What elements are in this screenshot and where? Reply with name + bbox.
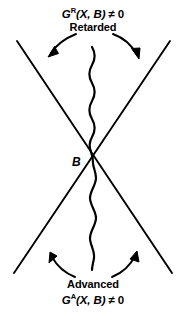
top-right-arrow-head bbox=[132, 48, 141, 59]
vertex-label-b: B bbox=[72, 155, 81, 169]
bottom-right-arrow-head bbox=[130, 251, 139, 262]
retarded-formula-arguments: (X, B) bbox=[76, 8, 105, 20]
retarded-region-label: Retarded bbox=[0, 21, 186, 33]
retarded-formula-relation: ≠ 0 bbox=[105, 8, 124, 20]
top-left-curved-arrow bbox=[48, 34, 76, 57]
diagram-canvas bbox=[0, 0, 186, 312]
bottom-left-curved-arrow bbox=[49, 252, 75, 277]
top-right-curved-arrow bbox=[113, 34, 140, 59]
light-cone-figure: GR(X, B) ≠ 0 Retarded Advanced GA(X, B) … bbox=[0, 0, 186, 312]
advanced-region-label: Advanced bbox=[0, 278, 186, 290]
retarded-green-function-formula: GR(X, B) ≠ 0 bbox=[0, 6, 186, 20]
advanced-formula-arguments: (X, B) bbox=[76, 294, 105, 306]
bottom-left-arrow-shaft bbox=[52, 257, 75, 277]
top-left-arrow-head bbox=[48, 47, 59, 58]
retarded-formula-symbol: G bbox=[62, 8, 71, 20]
advanced-formula-relation: ≠ 0 bbox=[105, 294, 124, 306]
bottom-right-curved-arrow bbox=[112, 251, 139, 277]
wavy-propagator-upper bbox=[89, 47, 94, 163]
light-cone-line-nw-se bbox=[17, 41, 172, 273]
advanced-formula-symbol: G bbox=[62, 294, 71, 306]
advanced-green-function-formula: GA(X, B) ≠ 0 bbox=[0, 292, 186, 306]
wavy-propagator-lower bbox=[90, 163, 96, 270]
